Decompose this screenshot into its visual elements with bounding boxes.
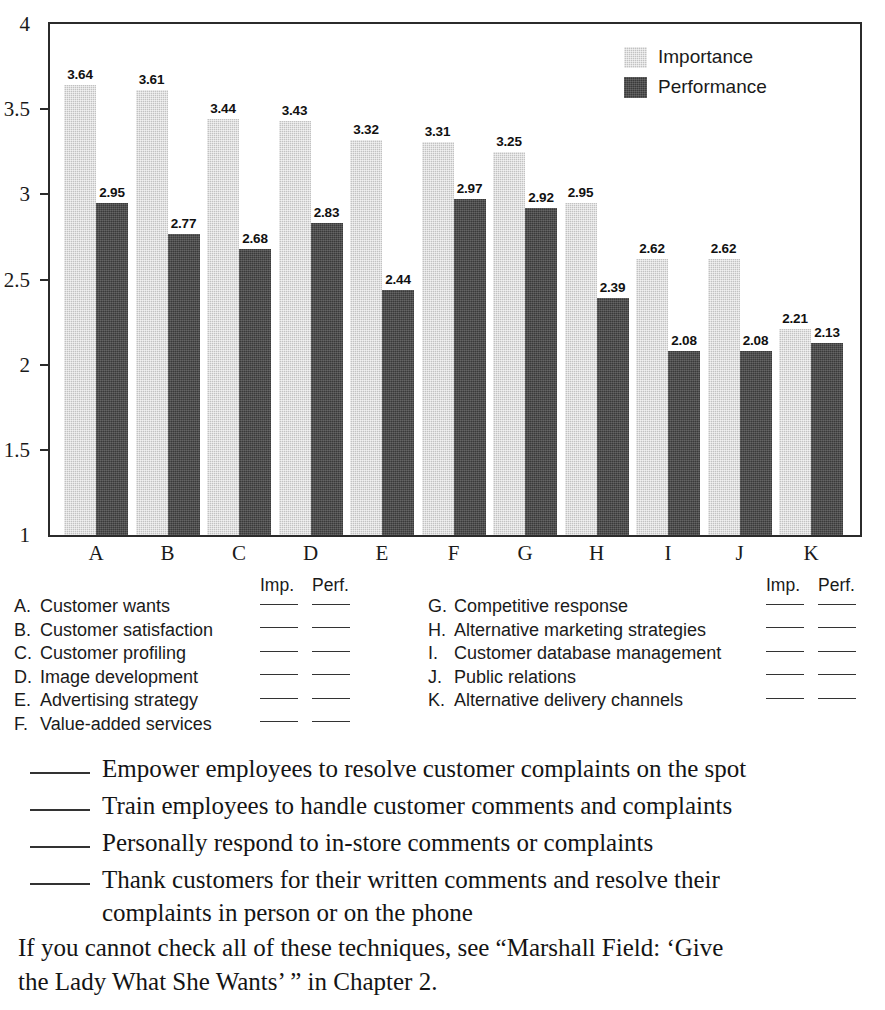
bar-group: 3.432.83 [279,24,343,535]
key-blank-performance[interactable] [312,714,364,735]
bar-value-label: 3.64 [67,67,92,82]
bar-performance: 2.83 [311,223,343,535]
key-header-imp-left: Imp. [260,575,312,596]
bar-importance: 3.32 [350,140,382,535]
checklist-blank[interactable] [30,883,90,885]
key-blank-importance[interactable] [260,620,312,641]
key-header-imp-right: Imp. [766,575,818,596]
key-blank-importance[interactable] [260,690,312,711]
checklist-item: Thank customers for their written commen… [0,863,885,929]
key-row: J.Public relations [428,667,878,691]
key-blank-performance[interactable] [312,596,364,617]
y-tick-label: 3.5 [4,97,30,122]
key-rows-right: G.Competitive responseH.Alternative mark… [428,596,878,714]
bar-importance: 2.95 [565,203,597,535]
bar-value-label: 2.68 [242,231,267,246]
key-blank-performance[interactable] [312,620,364,641]
x-tick-label: H [589,541,604,566]
bar-performance: 2.13 [811,343,843,535]
plot-area: 3.642.953.612.773.442.683.432.833.322.44… [48,22,862,537]
bar-value-label: 2.08 [671,333,696,348]
key-item-label: Advertising strategy [40,690,260,711]
checklist-blank[interactable] [30,846,90,848]
bar-value-label: 2.95 [568,185,593,200]
key-item-label: Customer wants [40,596,260,617]
key-item-label: Customer satisfaction [40,620,260,641]
x-tick-label: K [803,541,818,566]
key-blank-performance[interactable] [312,643,364,664]
bar-group: 3.252.92 [493,24,557,535]
category-key: Imp. Perf. A.Customer wantsB.Customer sa… [0,572,885,740]
bar-value-label: 2.95 [99,185,124,200]
key-letter: K. [428,690,454,711]
bar-performance: 2.68 [239,249,271,535]
checklist-text: Personally respond to in-store comments … [102,826,885,859]
bar-group: 2.952.39 [565,24,629,535]
key-blank-performance[interactable] [818,596,870,617]
bar-group: 3.612.77 [136,24,200,535]
key-blank-performance[interactable] [818,667,870,688]
key-letter: C. [14,643,40,664]
bar-value-label: 2.39 [600,280,625,295]
bar-value-label: 2.21 [782,311,807,326]
bar-chart-figure: 43.532.521.51 3.642.953.612.773.442.683.… [0,0,885,575]
legend-label-performance: Performance [658,76,767,98]
key-blank-importance[interactable] [766,643,818,664]
key-blank-importance[interactable] [766,690,818,711]
checklist-item: Empower employees to resolve customer co… [0,752,885,785]
checklist-blank[interactable] [30,809,90,811]
key-header-right: Imp. Perf. [428,572,878,596]
key-letter: H. [428,620,454,641]
checklist: Empower employees to resolve customer co… [0,752,885,933]
checklist-text: Thank customers for their written commen… [102,863,885,929]
key-row: G.Competitive response [428,596,878,620]
key-blank-performance[interactable] [818,690,870,711]
key-column-right: Imp. Perf. G.Competitive responseH.Alter… [428,572,878,714]
key-blank-importance[interactable] [260,643,312,664]
legend-item-performance: Performance [624,76,824,98]
key-letter: G. [428,596,454,617]
key-row: H.Alternative marketing strategies [428,620,878,644]
key-row: B.Customer satisfaction [14,620,414,644]
bar-performance: 2.44 [382,290,414,535]
key-item-label: Customer profiling [40,643,260,664]
key-blank-importance[interactable] [766,620,818,641]
y-tick-label: 1 [20,523,31,548]
bar-value-label: 3.25 [496,134,521,149]
bar-importance: 3.25 [493,152,525,535]
bar-value-label: 2.92 [528,190,553,205]
key-row: K.Alternative delivery channels [428,690,878,714]
bar-performance: 2.08 [668,351,700,535]
key-blank-performance[interactable] [818,620,870,641]
key-blank-importance[interactable] [260,714,312,735]
key-item-label: Public relations [454,667,766,688]
key-row: F.Value-added services [14,714,414,738]
closing-line-2: the Lady What She Wants’ ” in Chapter 2. [18,965,876,999]
checklist-text: Train employees to handle customer comme… [102,789,885,822]
key-blank-performance[interactable] [312,690,364,711]
key-blank-importance[interactable] [766,667,818,688]
bar-value-label: 2.08 [743,333,768,348]
bar-performance: 2.77 [168,234,200,535]
key-letter: B. [14,620,40,641]
bar-importance: 2.62 [636,259,668,535]
key-blank-importance[interactable] [260,596,312,617]
key-blank-performance[interactable] [312,667,364,688]
chart-legend: Importance Performance [624,46,824,106]
key-blank-performance[interactable] [818,643,870,664]
bar-value-label: 2.83 [314,205,339,220]
x-tick-label: J [735,541,743,566]
bar-performance: 2.97 [454,199,486,535]
key-row: C.Customer profiling [14,643,414,667]
bar-importance: 3.31 [422,142,454,535]
checklist-item: Personally respond to in-store comments … [0,826,885,859]
key-blank-importance[interactable] [766,596,818,617]
checklist-blank[interactable] [30,772,90,774]
bar-importance: 2.21 [779,329,811,535]
x-tick-label: E [376,541,389,566]
key-blank-importance[interactable] [260,667,312,688]
key-letter: D. [14,667,40,688]
y-tick-label: 2 [20,352,31,377]
bar-value-label: 3.31 [425,124,450,139]
bar-group: 3.642.95 [64,24,128,535]
